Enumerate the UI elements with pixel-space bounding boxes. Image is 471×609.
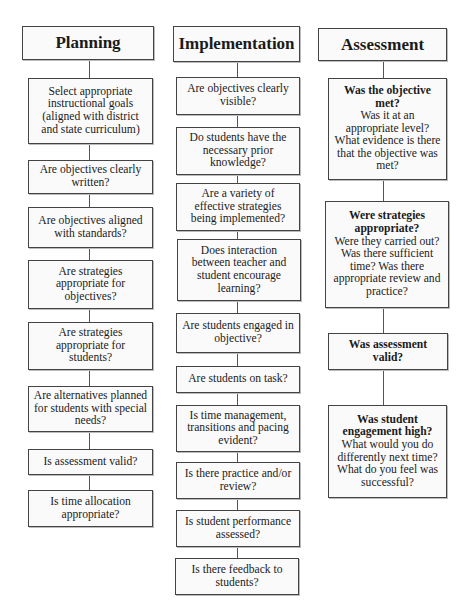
planning-step: Are objectives aligned with standards?	[28, 207, 153, 248]
assessment-step-text: Was it at an appropriate level? What evi…	[333, 110, 442, 173]
planning-step: Are alternatives planned for students wi…	[28, 386, 153, 432]
implementation-step: Is student performance assessed?	[176, 510, 300, 547]
planning-step: Are strategies appropriate for objective…	[28, 260, 153, 309]
implementation-step: Are a variety of effective strategies be…	[176, 183, 300, 231]
implementation-step: Are students engaged in objective?	[176, 313, 300, 353]
column-header-implementation: Implementation	[173, 26, 300, 62]
assessment-step-text: What would you do differently next time?…	[333, 439, 442, 489]
implementation-step: Are objectives clearly visible?	[176, 77, 300, 115]
assessment-step-heading: Was assessment valid?	[333, 339, 443, 364]
planning-step: Are objectives clearly written?	[28, 160, 153, 194]
planning-step: Select appropriate instructional goals (…	[28, 78, 153, 144]
implementation-step: Does interaction between teacher and stu…	[177, 239, 301, 301]
assessment-step-text: Were they carried out? Was there suffici…	[330, 236, 444, 299]
column-header-assessment: Assessment	[318, 28, 447, 61]
planning-step: Is assessment valid?	[28, 449, 153, 475]
assessment-step: Was assessment valid?	[328, 333, 448, 370]
assessment-step: Were strategies appropriate? Were they c…	[325, 201, 449, 308]
assessment-step-heading: Was the objective met?	[333, 85, 442, 110]
planning-step: Is time allocation appropriate?	[28, 490, 153, 527]
implementation-step: Do students have the necessary prior kno…	[176, 127, 300, 175]
assessment-step: Was student engagement high? What would …	[328, 405, 447, 498]
implementation-step: Is there feedback to students?	[175, 558, 299, 595]
implementation-step: Is there practice and/or review?	[176, 462, 300, 499]
implementation-step: Is time management, transitions and paci…	[176, 405, 300, 452]
column-header-planning: Planning	[22, 26, 154, 60]
assessment-step-heading: Were strategies appropriate?	[330, 210, 444, 235]
assessment-step: Was the objective met? Was it at an appr…	[328, 78, 447, 180]
planning-step: Are strategies appropriate for students?	[28, 322, 153, 370]
implementation-step: Are students on task?	[176, 366, 300, 393]
assessment-step-heading: Was student engagement high?	[333, 414, 442, 439]
